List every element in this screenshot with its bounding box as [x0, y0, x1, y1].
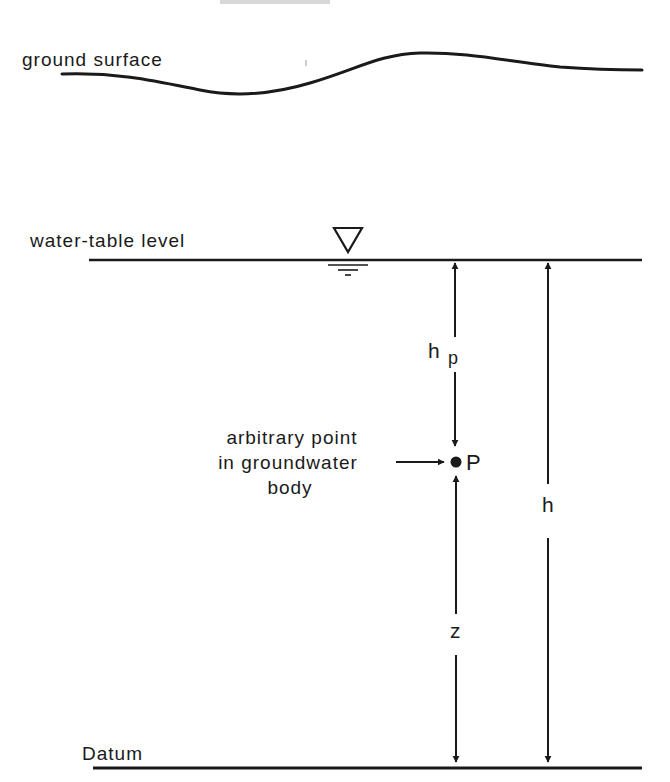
pressure-head-subscript: p — [448, 348, 459, 368]
water-table-label: water-table level — [29, 230, 185, 251]
elevation-head-label: z — [450, 619, 462, 642]
point-label-line-3: body — [267, 477, 312, 498]
speck — [305, 60, 307, 66]
datum-label: Datum — [82, 743, 143, 764]
point-name-label: P — [466, 450, 482, 475]
ground-surface-label: ground surface — [22, 49, 163, 70]
point-p-dot — [451, 457, 462, 468]
water-table-symbol-icon — [328, 228, 368, 275]
point-label-line-1: arbitrary point — [226, 427, 357, 448]
point-label-line-2: in groundwater — [218, 452, 358, 473]
groundwater-head-diagram: ground surface water-table level h p arb… — [0, 0, 670, 782]
cropped-header-fragment — [220, 0, 330, 4]
total-head-label: h — [542, 493, 555, 516]
pressure-head-label: h — [428, 339, 441, 362]
